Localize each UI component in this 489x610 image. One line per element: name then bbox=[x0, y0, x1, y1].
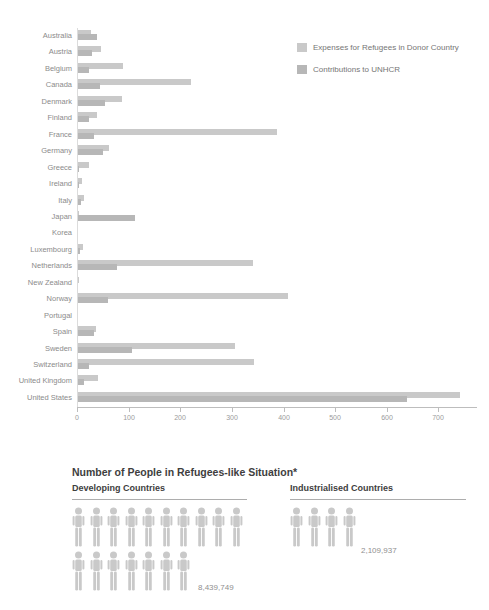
country-label: Portugal bbox=[0, 311, 72, 320]
baseline bbox=[77, 28, 78, 407]
person-icon bbox=[90, 507, 103, 547]
contributions-bar bbox=[77, 83, 100, 89]
country-row: Portugal bbox=[0, 308, 489, 325]
country-label: Greece bbox=[0, 163, 72, 172]
country-row: Belgium bbox=[0, 61, 489, 78]
legend-swatch bbox=[297, 65, 307, 74]
country-label: Austria bbox=[0, 47, 72, 56]
axis-tick-label: 100 bbox=[117, 414, 141, 421]
contributions-bar bbox=[77, 347, 132, 353]
country-row: Finland bbox=[0, 110, 489, 127]
axis-tick bbox=[284, 408, 285, 412]
contributions-bar bbox=[77, 133, 94, 139]
contributions-bar bbox=[77, 116, 89, 122]
person-icon bbox=[325, 507, 338, 547]
country-label: France bbox=[0, 130, 72, 139]
country-label: United States bbox=[0, 393, 72, 402]
country-label: Finland bbox=[0, 113, 72, 122]
person-icon bbox=[107, 551, 120, 591]
axis-tick-label: 700 bbox=[426, 414, 450, 421]
country-label: Denmark bbox=[0, 97, 72, 106]
country-label: Luxembourg bbox=[0, 245, 72, 254]
country-row: Japan bbox=[0, 209, 489, 226]
country-row: Denmark bbox=[0, 94, 489, 111]
person-icon bbox=[308, 507, 321, 547]
legend-label: Contributions to UNHCR bbox=[313, 65, 400, 74]
country-row: Netherlands bbox=[0, 258, 489, 275]
country-label: Netherlands bbox=[0, 261, 72, 270]
country-label: Australia bbox=[0, 31, 72, 40]
expenses-bar bbox=[77, 359, 254, 365]
person-icon bbox=[72, 551, 85, 591]
country-row: Norway bbox=[0, 291, 489, 308]
country-row: Canada bbox=[0, 77, 489, 94]
axis-tick bbox=[438, 408, 439, 412]
industrialised-pictogram-row-1 bbox=[290, 507, 356, 547]
axis-tick-label: 600 bbox=[375, 414, 399, 421]
country-row: France bbox=[0, 127, 489, 144]
country-label: Spain bbox=[0, 327, 72, 336]
country-row: United Kingdom bbox=[0, 373, 489, 390]
person-icon bbox=[142, 507, 155, 547]
country-row: Germany bbox=[0, 143, 489, 160]
contributions-bar bbox=[77, 396, 407, 402]
country-label: Ireland bbox=[0, 179, 72, 188]
person-icon bbox=[107, 507, 120, 547]
developing-countries-label: Developing Countries bbox=[72, 483, 165, 493]
country-row: Spain bbox=[0, 324, 489, 341]
developing-countries-rule bbox=[72, 499, 247, 500]
legend-label: Expenses for Refugees in Donor Country bbox=[313, 43, 459, 52]
country-row: Switzerland bbox=[0, 357, 489, 374]
country-row: Korea bbox=[0, 225, 489, 242]
country-label: Italy bbox=[0, 196, 72, 205]
axis-tick-label: 400 bbox=[272, 414, 296, 421]
country-label: Canada bbox=[0, 80, 72, 89]
pictogram-section-title: Number of People in Refugees-like Situat… bbox=[72, 466, 297, 478]
country-row: Sweden bbox=[0, 341, 489, 358]
person-icon bbox=[72, 507, 85, 547]
industrialised-countries-label: Industrialised Countries bbox=[290, 483, 393, 493]
developing-countries-value: 8,439,749 bbox=[198, 583, 234, 592]
contributions-bar bbox=[77, 149, 103, 155]
contributions-bar bbox=[77, 297, 108, 303]
country-row: Luxembourg bbox=[0, 242, 489, 259]
country-label: Germany bbox=[0, 146, 72, 155]
axis-tick bbox=[180, 408, 181, 412]
person-icon bbox=[90, 551, 103, 591]
country-row: Ireland bbox=[0, 176, 489, 193]
axis-tick-label: 300 bbox=[220, 414, 244, 421]
country-row: Italy bbox=[0, 193, 489, 210]
country-label: Switzerland bbox=[0, 360, 72, 369]
expenses-bar bbox=[77, 293, 288, 299]
country-row: Greece bbox=[0, 160, 489, 177]
country-label: Norway bbox=[0, 294, 72, 303]
person-icon bbox=[343, 507, 356, 547]
axis-tick bbox=[129, 408, 130, 412]
industrialised-countries-value: 2,109,937 bbox=[361, 546, 397, 555]
contributions-bar bbox=[77, 379, 84, 385]
axis-tick bbox=[232, 408, 233, 412]
person-icon bbox=[125, 551, 138, 591]
country-row: New Zealand bbox=[0, 275, 489, 292]
contributions-bar bbox=[77, 50, 92, 56]
country-label: Korea bbox=[0, 228, 72, 237]
developing-pictogram-row-1 bbox=[72, 507, 243, 547]
contributions-bar bbox=[77, 67, 89, 73]
person-icon bbox=[195, 507, 208, 547]
country-row: United States bbox=[0, 390, 489, 407]
person-icon bbox=[142, 551, 155, 591]
person-icon bbox=[160, 551, 173, 591]
person-icon bbox=[230, 507, 243, 547]
axis-tick-label: 200 bbox=[168, 414, 192, 421]
axis-tick bbox=[77, 408, 78, 412]
axis-tick bbox=[387, 408, 388, 412]
contributions-bar bbox=[77, 215, 135, 221]
legend-swatch bbox=[297, 43, 307, 52]
person-icon bbox=[290, 507, 303, 547]
person-icon bbox=[177, 551, 190, 591]
country-label: New Zealand bbox=[0, 278, 72, 287]
contributions-bar bbox=[77, 100, 105, 106]
person-icon bbox=[125, 507, 138, 547]
country-label: Belgium bbox=[0, 64, 72, 73]
axis-line bbox=[77, 407, 477, 408]
